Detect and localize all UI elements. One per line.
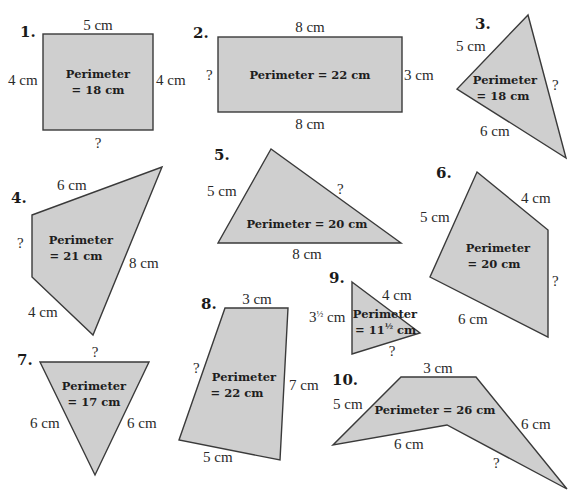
problem-10: 10. 3 cm 5 cm 6 cm 6 cm ? Perimeter = 26… (332, 360, 567, 489)
side-label-right: ? (337, 181, 344, 197)
side-label-top: 6 cm (57, 177, 87, 193)
quadrilateral-shape (179, 308, 288, 460)
side-label-inner-left: 6 cm (394, 436, 424, 452)
problem-number: 3. (475, 15, 491, 33)
perimeter-value: = 20 cm (468, 257, 521, 271)
side-label-top: 8 cm (295, 19, 325, 35)
problem-number: 6. (436, 164, 452, 182)
problem-3: 3. 5 cm ? 6 cm Perimeter = 18 cm (456, 15, 566, 158)
side-label-lower-left: 6 cm (480, 123, 510, 139)
side-label-left: 5 cm (207, 183, 237, 199)
perimeter-worksheet: 1. 5 cm 4 cm 4 cm ? Perimeter = 18 cm 2.… (0, 0, 575, 498)
problem-7: 7. ? 6 cm 6 cm Perimeter = 17 cm (17, 344, 157, 475)
side-label-left: 6 cm (30, 415, 60, 431)
side-label-bottom: ? (95, 135, 102, 151)
side-label-upper-right: 4 cm (382, 287, 412, 303)
perimeter-label: Perimeter (473, 73, 538, 87)
perimeter-label: Perimeter (49, 233, 114, 247)
problem-9: 9. 4 cm 3½ cm ? Perimeter = 11½ cm (309, 269, 420, 359)
problem-5: 5. 5 cm ? 8 cm Perimeter = 20 cm (207, 146, 401, 262)
problem-number: 8. (201, 295, 217, 313)
side-label-right: 3 cm (404, 67, 434, 83)
perimeter-value: = 21 cm (50, 249, 103, 263)
problem-6: 6. 5 cm 4 cm ? 6 cm Perimeter = 20 cm (420, 164, 559, 337)
side-label-right: 6 cm (521, 416, 551, 432)
side-label-bottom: 8 cm (292, 246, 322, 262)
perimeter-label: Perimeter = 22 cm (249, 68, 370, 82)
side-label-right: ? (552, 77, 559, 93)
perimeter-value: = 22 cm (211, 386, 264, 400)
side-label-top: 3 cm (423, 360, 453, 376)
side-label-right: 6 cm (127, 415, 157, 431)
perimeter-value: = 18 cm (477, 89, 530, 103)
side-label-upper-left: 5 cm (333, 396, 363, 412)
side-label-upper-right: 4 cm (521, 190, 551, 206)
side-label-top: ? (92, 344, 99, 360)
perimeter-label: Perimeter (66, 67, 131, 81)
problem-number: 2. (193, 24, 209, 42)
side-label-bottom: 5 cm (203, 449, 233, 465)
problem-number: 4. (11, 189, 27, 207)
side-label-inner-right: ? (493, 455, 500, 471)
rectangle-shape (43, 34, 153, 130)
problem-number: 9. (329, 269, 345, 287)
side-label-bottom-left: 4 cm (28, 304, 58, 320)
problem-8: 8. 3 cm ? 7 cm 5 cm Perimeter = 22 cm (179, 291, 319, 465)
problem-number: 10. (332, 371, 358, 389)
problem-number: 7. (17, 351, 33, 369)
perimeter-label: Perimeter (353, 307, 418, 321)
side-label-left: ? (206, 67, 213, 83)
perimeter-label: Perimeter (466, 241, 531, 255)
perimeter-label: Perimeter = 26 cm (374, 403, 495, 417)
side-label-bottom: 6 cm (458, 311, 488, 327)
side-label-bottom: 8 cm (295, 116, 325, 132)
side-label-right: 8 cm (129, 255, 159, 271)
side-label-right: 7 cm (289, 377, 319, 393)
perimeter-label: Perimeter (62, 379, 127, 393)
side-label-left: ? (17, 235, 24, 251)
side-label-left: ? (193, 360, 200, 376)
problem-number: 1. (20, 23, 36, 41)
perimeter-label: Perimeter (212, 370, 277, 384)
side-label-top: 5 cm (83, 17, 113, 33)
problem-4: 4. 6 cm ? 8 cm 4 cm Perimeter = 21 cm (11, 167, 162, 335)
perimeter-value: = 18 cm (72, 83, 125, 97)
side-label-upper-left: 5 cm (420, 209, 450, 225)
perimeter-label: Perimeter = 20 cm (246, 217, 367, 231)
side-label-right: 4 cm (156, 72, 186, 88)
side-label-left: 4 cm (8, 72, 38, 88)
side-label-right: ? (552, 273, 559, 289)
side-label-top: 3 cm (242, 291, 272, 307)
side-label-left: 3½ cm (309, 309, 346, 325)
side-label-bottom: ? (389, 343, 396, 359)
concave-quadrilateral-shape (333, 377, 567, 489)
side-label-upper-left: 5 cm (456, 38, 486, 54)
problem-2: 2. 8 cm ? 3 cm 8 cm Perimeter = 22 cm (193, 19, 434, 132)
problem-number: 5. (214, 146, 230, 164)
perimeter-value: = 17 cm (68, 395, 121, 409)
problem-1: 1. 5 cm 4 cm 4 cm ? Perimeter = 18 cm (8, 17, 186, 151)
